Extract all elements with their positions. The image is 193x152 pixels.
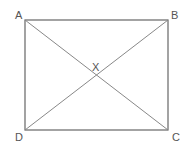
vertex-label-d: D <box>15 132 23 143</box>
vertex-label-a: A <box>15 10 22 21</box>
intersection-label-x: X <box>92 62 99 73</box>
vertex-label-b: B <box>171 10 178 21</box>
vertex-label-c: C <box>172 132 180 143</box>
rectangle-diagram <box>0 0 193 152</box>
